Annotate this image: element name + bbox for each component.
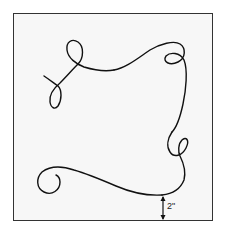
measurement-label: 2" — [167, 201, 175, 211]
scroll-line-drawing — [0, 0, 225, 233]
top-left-loop — [44, 40, 114, 108]
right-side-loop — [162, 132, 188, 195]
diagram-canvas: 2" — [0, 0, 225, 233]
top-arc — [114, 42, 186, 132]
measurement-arrow — [161, 196, 166, 220]
bottom-scroll — [38, 167, 162, 195]
